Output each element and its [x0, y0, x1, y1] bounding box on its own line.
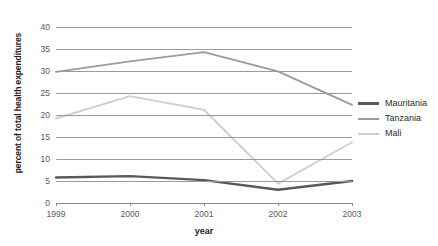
x-tick-mark [352, 203, 353, 206]
gridline [56, 27, 352, 28]
gridline [56, 159, 352, 160]
legend-swatch-icon [358, 102, 379, 105]
x-tick-mark [204, 203, 205, 206]
y-tick-label: 5 [45, 177, 50, 186]
y-tick-label: 20 [41, 111, 50, 120]
chart-legend: MauritaniaTanzaniaMali [358, 96, 427, 141]
legend-item-tanzania[interactable]: Tanzania [358, 111, 427, 126]
plot-area: 051015202530354019992000200120022003 [56, 27, 352, 203]
series-line-mali [56, 96, 352, 184]
x-tick-label: 2002 [269, 210, 288, 219]
y-tick-label: 15 [41, 133, 50, 142]
gridline [56, 137, 352, 138]
line-chart: percent of total health expenditures 051… [0, 0, 438, 246]
legend-label: Mauritania [385, 99, 427, 108]
y-axis-title: percent of total health expenditures [11, 8, 25, 198]
gridline [56, 49, 352, 50]
y-tick-label: 0 [45, 199, 50, 208]
x-tick-label: 2003 [343, 210, 362, 219]
legend-item-mauritania[interactable]: Mauritania [358, 96, 427, 111]
x-tick-label: 2000 [121, 210, 140, 219]
legend-label: Tanzania [385, 114, 421, 123]
gridline [56, 181, 352, 182]
series-line-tanzania [56, 52, 352, 105]
series-line-mauritania [56, 176, 352, 190]
y-tick-label: 30 [41, 67, 50, 76]
y-tick-label: 25 [41, 89, 50, 98]
gridline [56, 71, 352, 72]
x-tick-mark [56, 203, 57, 206]
legend-swatch-icon [358, 118, 379, 120]
legend-swatch-icon [358, 133, 379, 135]
gridline [56, 115, 352, 116]
y-tick-label: 40 [41, 23, 50, 32]
x-tick-label: 1999 [47, 210, 66, 219]
x-tick-label: 2001 [195, 210, 214, 219]
x-axis-title: year [56, 226, 352, 236]
legend-label: Mali [385, 129, 402, 138]
y-tick-label: 10 [41, 155, 50, 164]
legend-item-mali[interactable]: Mali [358, 126, 427, 141]
y-tick-label: 35 [41, 45, 50, 54]
x-tick-mark [278, 203, 279, 206]
x-tick-mark [130, 203, 131, 206]
gridline [56, 93, 352, 94]
